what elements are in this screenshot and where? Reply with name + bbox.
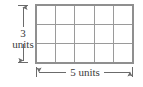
grid-cell: [114, 5, 133, 24]
grid-cell: [94, 44, 113, 63]
grid-cell: [75, 24, 94, 43]
grid-cell: [75, 44, 94, 63]
unit-square-grid: [36, 5, 133, 63]
diagram-canvas: 3 units 5 units: [0, 0, 143, 87]
grid-cell: [94, 5, 113, 24]
grid-cell: [114, 24, 133, 43]
grid-cell: [36, 24, 55, 43]
rectangle-grid-diagram: 3 units 5 units: [0, 0, 143, 87]
grid-cell: [114, 44, 133, 63]
grid-cell: [36, 5, 55, 24]
grid-cell: [75, 5, 94, 24]
vertical-dimension-unit: units: [12, 38, 33, 50]
grid-cell: [55, 24, 74, 43]
grid-cell: [55, 5, 74, 24]
grid-cells: [36, 5, 133, 63]
grid-cell: [55, 44, 74, 63]
horizontal-dimension-label: 5 units: [70, 66, 100, 78]
grid-cell: [36, 44, 55, 63]
grid-cell: [94, 24, 113, 43]
vertical-dimension-label: 3 units: [12, 27, 33, 50]
